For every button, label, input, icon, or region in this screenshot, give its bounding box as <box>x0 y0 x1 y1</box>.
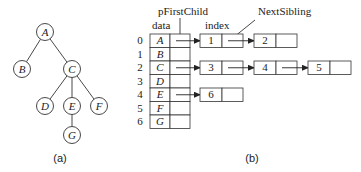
row-data: F <box>156 102 164 114</box>
table-row: 1B <box>137 48 190 62</box>
tree-node-F: F <box>91 98 108 115</box>
row-index: 5 <box>137 102 143 114</box>
tree-node-D: D <box>37 98 54 115</box>
tree-edge-C-F <box>77 76 94 99</box>
row-index: 2 <box>137 61 143 73</box>
tree-node-label: G <box>68 129 76 141</box>
list-node: 2 <box>254 34 297 48</box>
label-data: data <box>152 19 170 31</box>
row-data: C <box>156 61 164 73</box>
list-node-index: 4 <box>262 61 268 73</box>
storage-labels: pFirstChild NextSibling data index <box>152 5 312 31</box>
tree-node-A: A <box>37 24 54 41</box>
tree-node-G: G <box>64 127 81 144</box>
table-row: 6G <box>137 115 190 129</box>
row-index: 1 <box>137 48 143 60</box>
row-data: E <box>156 88 164 100</box>
tree-node-label: E <box>68 100 76 112</box>
tree-node-B: B <box>14 61 31 78</box>
row-index: 4 <box>137 88 143 100</box>
caption-a: (a) <box>53 152 66 164</box>
tree-edge-A-C <box>50 39 67 62</box>
list-node-index: 6 <box>208 88 214 100</box>
list-node: 5 <box>308 61 351 75</box>
label-nextsibling: NextSibling <box>258 5 312 17</box>
tree-node-label: F <box>95 100 103 112</box>
tree-node-label: B <box>19 63 26 75</box>
row-data: A <box>156 34 164 46</box>
label-index: index <box>205 19 230 31</box>
row-index: 0 <box>137 34 143 46</box>
row-index: 3 <box>137 75 143 87</box>
tree-node-E: E <box>64 98 81 115</box>
table-row: 3D <box>137 75 190 89</box>
list-node-index: 2 <box>262 34 268 46</box>
tree-storage-diagram: ABCDEFG (a) pFirstChild NextSibling data… <box>0 0 361 172</box>
row-index: 6 <box>137 115 143 127</box>
tree-edge-C-D <box>50 76 67 99</box>
child-list-A: 12 <box>176 34 297 48</box>
tree-node-label: D <box>40 100 49 112</box>
list-node: 6 <box>200 88 243 102</box>
tree-node-C: C <box>64 61 81 78</box>
list-node-index: 1 <box>208 34 214 46</box>
child-list-C: 345 <box>176 61 351 75</box>
child-lists: 123456 <box>176 34 351 102</box>
tree-node-label: A <box>41 26 49 38</box>
caption-b: (b) <box>245 152 258 164</box>
tree-edge-A-B <box>26 39 40 62</box>
tree-nodes: ABCDEFG <box>14 24 108 144</box>
tree-edges <box>26 39 94 127</box>
tree-node-label: C <box>68 63 76 75</box>
row-data: B <box>157 48 164 60</box>
row-data: G <box>156 115 164 127</box>
table-row: 5F <box>137 102 190 116</box>
node-table: 0A1B2C3D4E5F6G <box>137 34 190 129</box>
list-node-index: 3 <box>208 61 214 73</box>
list-node-index: 5 <box>316 61 322 73</box>
label-pfirstchild: pFirstChild <box>158 5 209 17</box>
row-data: D <box>155 75 164 87</box>
